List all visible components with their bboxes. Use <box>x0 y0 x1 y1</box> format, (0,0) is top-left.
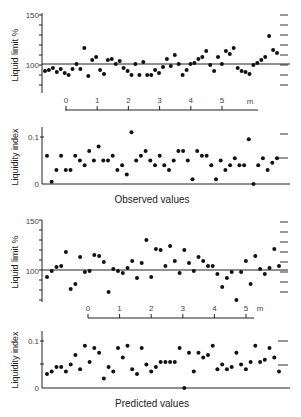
data-point <box>168 244 172 248</box>
data-point <box>78 367 82 371</box>
data-point <box>234 298 238 302</box>
data-point <box>64 168 68 172</box>
data-point <box>216 55 220 59</box>
data-point <box>116 346 120 350</box>
data-point <box>200 154 204 158</box>
data-point <box>181 149 185 153</box>
data-point <box>275 156 279 160</box>
data-point <box>244 259 248 263</box>
data-point <box>55 365 59 369</box>
scale-tick-label: 4 <box>212 304 217 313</box>
data-point <box>189 62 193 66</box>
data-point <box>267 34 271 38</box>
data-point <box>173 259 177 263</box>
data-point <box>153 68 157 72</box>
data-point <box>263 358 267 362</box>
data-point <box>110 57 114 61</box>
data-point <box>228 163 232 167</box>
data-point <box>88 360 92 364</box>
data-point <box>116 269 120 273</box>
data-point <box>211 344 215 348</box>
data-point <box>130 130 134 134</box>
data-point <box>94 55 98 59</box>
data-point <box>149 275 153 279</box>
data-point <box>263 272 267 276</box>
data-point <box>252 182 256 186</box>
data-point <box>83 163 87 167</box>
data-point <box>69 363 73 367</box>
data-point <box>167 168 171 172</box>
data-point <box>154 365 158 369</box>
data-point <box>126 344 130 348</box>
data-point <box>133 62 137 66</box>
data-point <box>106 159 110 163</box>
data-point <box>78 159 82 163</box>
data-point <box>43 69 47 73</box>
scale-tick-label: 3 <box>157 96 162 105</box>
data-point <box>54 168 58 172</box>
data-point <box>258 360 262 364</box>
data-point <box>47 68 51 72</box>
data-point <box>153 163 157 167</box>
data-point <box>249 282 253 286</box>
data-point <box>228 52 232 56</box>
data-point <box>261 156 265 160</box>
data-point <box>139 154 143 158</box>
data-point <box>144 149 148 153</box>
data-point <box>277 370 281 374</box>
data-point <box>220 363 224 367</box>
data-point <box>220 62 224 66</box>
ylabel-liquidity-index: Liquidity index <box>10 331 20 389</box>
ytick-0: 0 <box>35 384 40 393</box>
data-point <box>71 67 75 71</box>
data-point <box>140 346 144 350</box>
data-point <box>111 267 115 271</box>
data-point <box>73 282 77 286</box>
data-point <box>178 346 182 350</box>
data-point <box>204 49 208 53</box>
data-point <box>197 255 201 259</box>
data-point <box>268 266 272 270</box>
data-point <box>162 163 166 167</box>
data-point <box>50 180 54 184</box>
ylabel-liquid-limit: Liquid limit % <box>10 235 20 288</box>
ytick-100: 100 <box>26 267 40 276</box>
data-point <box>45 154 49 158</box>
data-point <box>144 238 148 242</box>
ytick-150: 150 <box>26 217 40 226</box>
data-point <box>182 248 186 252</box>
data-point <box>130 73 134 77</box>
data-point <box>275 51 279 55</box>
data-point <box>102 260 106 264</box>
data-point <box>214 177 218 181</box>
scale-tick-label: 2 <box>149 304 154 313</box>
data-point <box>75 62 79 66</box>
data-point <box>259 58 263 62</box>
data-point <box>130 367 134 371</box>
data-point <box>121 271 125 275</box>
data-point <box>107 290 111 294</box>
data-point <box>220 285 224 289</box>
data-point <box>121 355 125 359</box>
data-point <box>51 66 55 70</box>
data-point <box>45 275 49 279</box>
ytick-0-1: 0.1 <box>28 337 40 346</box>
scale-unit: m <box>257 304 264 313</box>
data-point <box>185 68 189 72</box>
data-point <box>107 365 111 369</box>
data-point <box>237 163 241 167</box>
data-point <box>92 253 96 257</box>
data-point <box>215 272 219 276</box>
data-point <box>126 266 130 270</box>
data-point <box>63 71 67 75</box>
scale-bar-observed: 012345 m <box>64 96 258 110</box>
ylabel-liquid-limit: Liquid limit % <box>10 28 20 81</box>
panel-observed-liquid-limit: 150 100 Liquid limit % <box>10 11 290 93</box>
data-point <box>83 270 87 274</box>
data-point <box>87 149 91 153</box>
panel-predicted-liquidity-index: 0.1 0 Liquidity index <box>10 331 290 393</box>
data-point <box>230 365 234 369</box>
data-point <box>242 163 246 167</box>
data-point <box>236 66 240 70</box>
data-point <box>240 69 244 73</box>
